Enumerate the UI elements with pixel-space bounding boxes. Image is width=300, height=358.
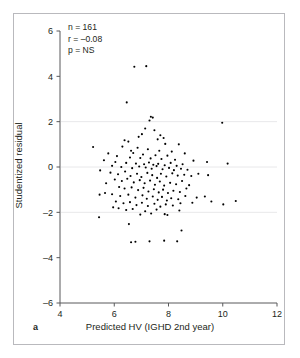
data-point — [165, 175, 167, 177]
data-point — [147, 148, 149, 150]
data-point — [136, 173, 138, 175]
data-point — [159, 206, 161, 208]
data-point — [117, 173, 119, 175]
data-point — [143, 163, 145, 165]
x-tick-label: 4 — [57, 309, 62, 319]
annotation-n: n = 161 — [68, 22, 102, 34]
data-point — [127, 194, 129, 196]
annotation-r: r = –0.08 — [68, 34, 102, 46]
data-point — [145, 166, 147, 168]
data-point — [124, 187, 126, 189]
data-point — [141, 133, 143, 135]
data-point — [120, 166, 122, 168]
data-point — [129, 201, 131, 203]
data-point — [111, 165, 113, 167]
data-point — [142, 153, 144, 155]
data-point — [207, 174, 209, 176]
data-point — [124, 170, 126, 172]
data-point — [164, 143, 166, 145]
data-point — [180, 168, 182, 170]
data-point — [103, 159, 105, 161]
data-point — [129, 175, 131, 177]
data-point — [144, 127, 146, 129]
data-point — [131, 186, 133, 188]
data-point — [148, 161, 150, 163]
y-tick-label: –2 — [43, 208, 53, 218]
data-point — [190, 175, 192, 177]
data-point — [183, 174, 185, 176]
data-point — [121, 180, 123, 182]
data-point — [158, 191, 160, 193]
data-point — [141, 202, 143, 204]
data-point — [204, 195, 206, 197]
data-point — [177, 198, 179, 200]
data-point — [144, 182, 146, 184]
data-point — [111, 193, 113, 195]
data-point — [105, 182, 107, 184]
data-point — [153, 188, 155, 190]
data-point — [159, 134, 161, 136]
data-point — [139, 179, 141, 181]
data-point — [176, 240, 178, 242]
data-point — [161, 196, 163, 198]
data-point — [163, 137, 165, 139]
data-point — [140, 176, 142, 178]
data-point — [118, 186, 120, 188]
data-point — [227, 163, 229, 165]
scatter-plot-canvas: 6420–2–4–6 4681012 — [0, 0, 300, 358]
data-point — [124, 139, 126, 141]
data-point — [184, 152, 186, 154]
data-point — [185, 187, 187, 189]
data-point — [175, 183, 177, 185]
data-point — [171, 151, 173, 153]
y-tick-label: 0 — [48, 162, 53, 172]
y-axis-ticks — [57, 31, 61, 303]
data-point — [114, 161, 116, 163]
data-point — [126, 101, 128, 103]
data-point — [160, 158, 162, 160]
y-tick-label: –4 — [43, 253, 53, 263]
data-point — [152, 117, 154, 119]
data-point — [150, 157, 152, 159]
data-point — [178, 143, 180, 145]
y-tick-label: 2 — [48, 117, 53, 127]
data-point — [130, 150, 132, 152]
data-point — [99, 194, 101, 196]
data-point — [167, 192, 169, 194]
data-point — [180, 229, 182, 231]
data-point — [163, 185, 165, 187]
data-point — [122, 202, 124, 204]
data-point — [156, 209, 158, 211]
data-point — [184, 195, 186, 197]
x-tick-label: 8 — [166, 309, 171, 319]
x-tick-label: 12 — [272, 309, 282, 319]
data-point — [125, 209, 127, 211]
data-point — [179, 191, 181, 193]
data-point — [164, 213, 166, 215]
y-tick-label: –6 — [43, 298, 53, 308]
data-point — [158, 150, 160, 152]
data-point — [197, 173, 199, 175]
data-point — [125, 162, 127, 164]
x-axis-ticks — [60, 303, 277, 307]
data-point — [182, 163, 184, 165]
data-point — [127, 141, 129, 143]
data-point — [206, 161, 208, 163]
data-point — [146, 198, 148, 200]
figure-panel: 6420–2–4–6 4681012 n = 161 r = –0.08 p =… — [0, 0, 300, 358]
data-point — [133, 181, 135, 183]
data-point — [143, 187, 145, 189]
data-point — [118, 207, 120, 209]
data-point — [152, 164, 154, 166]
y-axis-title: Studentized residual — [13, 86, 24, 246]
data-point — [139, 157, 141, 159]
data-point — [115, 200, 117, 202]
data-point — [109, 172, 111, 174]
x-tick-label: 6 — [112, 309, 117, 319]
y-tick-label: 4 — [48, 72, 53, 82]
data-point — [179, 202, 181, 204]
data-point — [188, 184, 190, 186]
panel-label: a — [33, 322, 38, 332]
data-point — [166, 200, 168, 202]
data-point — [99, 169, 101, 171]
